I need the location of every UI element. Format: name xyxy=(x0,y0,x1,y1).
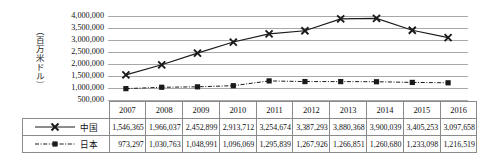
series-japan xyxy=(123,78,450,91)
table-year-header-2015: 2015 xyxy=(403,102,440,119)
y-tick-label: 4,000,000 xyxy=(71,12,104,20)
table-year-header-2013: 2013 xyxy=(330,102,367,119)
series-china xyxy=(122,15,451,78)
table-cell: 1,966,037 xyxy=(146,119,183,136)
y-tick-label: 1,500,000 xyxy=(71,72,104,80)
series-line xyxy=(126,18,448,74)
table-corner-cell xyxy=(23,102,110,119)
table-row: 日本973,2971,030,7631,048,9911,096,0691,29… xyxy=(23,136,477,153)
marker-square xyxy=(338,79,343,84)
table-cell: 3,254,674 xyxy=(256,119,293,136)
table-cell: 3,387,293 xyxy=(293,119,330,136)
table-cell: 1,233,098 xyxy=(403,136,440,153)
marker-square xyxy=(410,80,415,85)
table-cell: 1,260,680 xyxy=(367,136,404,153)
table-header-row: 2007200820092010201120122013201420152016 xyxy=(23,102,477,119)
legend-label: 日本 xyxy=(80,138,98,150)
table-cell: 1,295,839 xyxy=(256,136,293,153)
table-cell: 1,266,851 xyxy=(330,136,367,153)
marker-square xyxy=(267,78,272,83)
table-cell: 1,546,365 xyxy=(109,119,146,136)
table-cell: 1,216,519 xyxy=(440,136,477,153)
marker-square xyxy=(52,141,57,146)
table-cell: 973,297 xyxy=(109,136,146,153)
y-tick-label: 3,500,000 xyxy=(71,24,104,32)
marker-x xyxy=(194,50,201,57)
table-cell: 3,900,039 xyxy=(367,119,404,136)
table-cell: 1,267,926 xyxy=(293,136,330,153)
series-layer xyxy=(108,0,468,103)
y-tick-label: 3,000,000 xyxy=(71,36,104,44)
table-year-header-2008: 2008 xyxy=(146,102,183,119)
table-year-header-2007: 2007 xyxy=(109,102,146,119)
marker-square xyxy=(159,85,164,90)
marker-x xyxy=(158,61,165,68)
plot-area: （百万米ドル） 4,000,0003,500,0003,000,0002,500… xyxy=(0,0,470,103)
table-year-header-2011: 2011 xyxy=(256,102,293,119)
table-cell: 2,452,899 xyxy=(183,119,220,136)
marker-x xyxy=(122,71,129,78)
legend-swatch-japan xyxy=(34,138,76,150)
marker-square xyxy=(446,80,451,85)
table-year-header-2014: 2014 xyxy=(367,102,404,119)
table-cell: 1,030,763 xyxy=(146,136,183,153)
table-cell: 3,405,253 xyxy=(403,119,440,136)
data-table-wrapper: 2007200820092010201120122013201420152016… xyxy=(22,101,466,153)
series-line xyxy=(126,81,448,89)
legend-label: 中国 xyxy=(80,121,98,133)
table-body: 中国1,546,3651,966,0372,452,8992,913,7123,… xyxy=(23,119,477,153)
legend-swatch-china xyxy=(34,121,76,133)
marker-square xyxy=(302,79,307,84)
table-cell: 3,097,658 xyxy=(440,119,477,136)
y-tick-label: 2,000,000 xyxy=(71,60,104,68)
marker-square xyxy=(123,86,128,91)
table-year-header-2010: 2010 xyxy=(219,102,256,119)
table-cell: 1,048,991 xyxy=(183,136,220,153)
y-tick-label: 2,500,000 xyxy=(71,48,104,56)
table-year-header-2016: 2016 xyxy=(440,102,477,119)
marker-square xyxy=(231,83,236,88)
marker-square xyxy=(374,79,379,84)
table-year-header-2012: 2012 xyxy=(293,102,330,119)
legend-entry-japan: 日本 xyxy=(23,136,110,153)
table-year-header-2009: 2009 xyxy=(183,102,220,119)
legend-entry-china: 中国 xyxy=(23,119,110,136)
table-cell: 3,880,368 xyxy=(330,119,367,136)
table-cell: 1,096,069 xyxy=(219,136,256,153)
table-cell: 2,913,712 xyxy=(219,119,256,136)
marker-square xyxy=(195,84,200,89)
y-tick-label: 1,000,000 xyxy=(71,84,104,92)
table-row: 中国1,546,3651,966,0372,452,8992,913,7123,… xyxy=(23,119,477,136)
data-table: 2007200820092010201120122013201420152016… xyxy=(22,101,477,153)
y-axis-tick-labels: 4,000,0003,500,0003,000,0002,500,0002,00… xyxy=(44,0,106,103)
